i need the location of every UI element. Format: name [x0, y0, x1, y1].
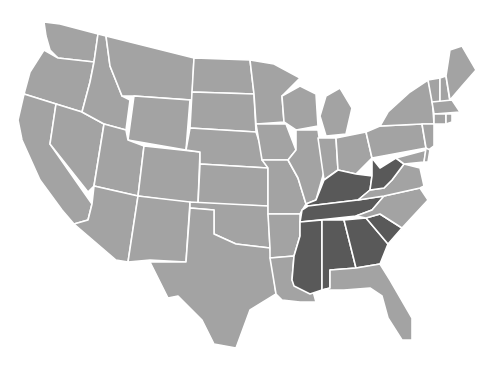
state-new-york: New York	[380, 80, 434, 126]
state-florida: Florida	[322, 264, 412, 340]
state-wisconsin: Wisconsin	[282, 86, 318, 130]
us-map: WashingtonOregonCaliforniaNevadaIdahoMon…	[0, 0, 478, 366]
state-kansas: Kansas	[198, 164, 268, 206]
state-montana: Montana	[106, 36, 194, 100]
state-north-dakota: North Dakota	[192, 58, 254, 94]
state-michigan: Michigan	[320, 88, 352, 136]
state-massachusetts: Massachusetts	[432, 100, 460, 114]
state-maine: Maine	[446, 46, 476, 100]
state-delaware: Delaware	[424, 148, 430, 162]
state-colorado: Colorado	[138, 146, 200, 204]
states-layer: WashingtonOregonCaliforniaNevadaIdahoMon…	[18, 22, 476, 348]
state-connecticut: Connecticut	[434, 114, 446, 124]
state-rhode-island: Rhode Island	[446, 114, 452, 124]
state-new-mexico: New Mexico	[128, 196, 190, 262]
state-wyoming: Wyoming	[128, 96, 190, 150]
state-ohio: Ohio	[336, 132, 372, 174]
state-iowa: Iowa	[256, 124, 296, 160]
state-south-dakota: South Dakota	[190, 92, 256, 132]
